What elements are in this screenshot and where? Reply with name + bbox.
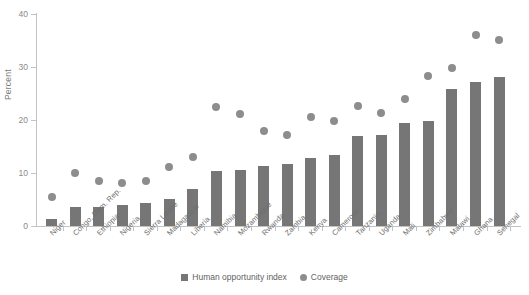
bar [305, 158, 316, 226]
data-point-marker [95, 177, 103, 185]
y-tick-label: 10 [6, 168, 28, 178]
data-point-marker [472, 31, 480, 39]
y-axis-label: Percent [3, 86, 13, 100]
bar [211, 171, 222, 226]
legend-circle-swatch-icon [300, 274, 307, 281]
data-point-marker [495, 36, 503, 44]
data-point-marker [377, 109, 385, 117]
chart-legend: Human opportunity index Coverage [0, 272, 529, 282]
data-point-marker [165, 163, 173, 171]
data-point-marker [307, 113, 315, 121]
y-tick [31, 173, 36, 174]
data-point-marker [71, 169, 79, 177]
legend-item-label: Human opportunity index [192, 272, 287, 282]
legend-item-coverage: Coverage [300, 272, 348, 282]
data-point-marker [118, 179, 126, 187]
y-tick [31, 14, 36, 15]
y-tick [31, 67, 36, 68]
data-point-marker [142, 177, 150, 185]
bar [329, 155, 340, 226]
data-point-marker [212, 103, 220, 111]
data-point-marker [236, 110, 244, 118]
legend-item-hoi: Human opportunity index [181, 272, 287, 282]
data-point-marker [189, 153, 197, 161]
data-point-marker [330, 117, 338, 125]
y-tick-label: 40 [6, 9, 28, 19]
bar [399, 123, 410, 226]
data-point-marker [354, 102, 362, 110]
y-tick-label: 20 [6, 115, 28, 125]
data-point-marker [260, 127, 268, 135]
y-tick [31, 226, 36, 227]
legend-square-swatch-icon [181, 274, 188, 281]
bar [494, 77, 505, 226]
data-point-marker [448, 64, 456, 72]
data-point-marker [401, 95, 409, 103]
data-point-marker [424, 72, 432, 80]
chart-container: Percent 010203040 NigerCongo, Dem. Rep.E… [0, 0, 529, 295]
bar [423, 121, 434, 226]
data-point-marker [48, 193, 56, 201]
bar [470, 82, 481, 226]
y-tick-label: 30 [6, 62, 28, 72]
y-tick [31, 120, 36, 121]
legend-item-label: Coverage [311, 272, 348, 282]
y-tick-label: 0 [6, 221, 28, 231]
data-point-marker [283, 131, 291, 139]
